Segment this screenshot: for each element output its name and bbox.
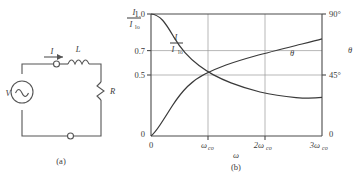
ytick-label-left-1p0: 1.0 — [134, 9, 145, 19]
ytick-label-right-45: 45° — [329, 70, 341, 80]
xtick-label-3wco: 3ω — [309, 140, 320, 150]
xtick-label-wco: ω — [201, 140, 207, 150]
panel-a-circuit: V I L R (a) — [5, 44, 116, 166]
xtick-label-wco-group: ω co — [201, 140, 214, 151]
figure-svg: V I L R (a) — [0, 0, 362, 172]
wire-inductor-to-resistor — [89, 64, 101, 82]
ytick-label-right-90: 90° — [329, 9, 341, 19]
axis-title-right-theta: θ — [348, 45, 352, 55]
terminal-bottom — [68, 133, 74, 139]
xtick-label-3wco-sub: co — [322, 145, 328, 151]
axis-title-left-denominator-sub: lo — [135, 24, 140, 30]
curve-theta — [151, 39, 322, 136]
axis-title-left-denominator: I — [129, 19, 134, 29]
xtick-label-wco-sub: co — [208, 145, 214, 151]
annotation-current-ratio: I I lo — [170, 32, 183, 55]
ytick-label-left-0: 0 — [141, 129, 145, 139]
ytick-label-left-0p7: 0.7 — [134, 46, 145, 56]
xtick-label-3wco-group: 3ω co — [309, 140, 328, 151]
resistor-zigzag — [97, 82, 104, 100]
inductor-label-L: L — [75, 44, 81, 54]
resistor-label-R: R — [109, 86, 116, 96]
curve-current-ratio — [151, 14, 322, 98]
annotation-current-ratio-numerator: I — [174, 32, 179, 42]
wire-bottom-left — [22, 110, 67, 136]
axis-title-x-omega: ω — [233, 150, 239, 160]
annotation-theta: θ — [290, 48, 294, 58]
current-arrow-head — [57, 54, 63, 60]
xtick-label-2wco-sub: co — [266, 145, 272, 151]
panel-a-caption: (a) — [56, 156, 66, 166]
inductor-coil — [68, 60, 89, 64]
ytick-label-left-0p5: 0.5 — [134, 70, 145, 80]
panel-b-chart: I I lo θ I I lo θ 1.0 0.7 0.5 0 90° — [127, 7, 352, 172]
annotation-current-ratio-denominator-sub: lo — [178, 49, 183, 55]
wire-right-bottom — [74, 100, 101, 136]
current-label-I: I — [50, 46, 55, 56]
panel-b-caption: (b) — [231, 162, 241, 172]
xtick-label-0: 0 — [149, 140, 153, 150]
figure-page: V I L R (a) — [0, 0, 362, 172]
xtick-label-2wco: 2ω — [254, 140, 264, 150]
wire-top-left — [22, 64, 53, 74]
xtick-label-2wco-group: 2ω co — [254, 140, 272, 151]
annotation-current-ratio-denominator: I — [171, 44, 176, 54]
terminal-top — [54, 61, 60, 67]
ac-source-sine-icon — [16, 90, 29, 97]
ytick-label-right-0: 0 — [329, 129, 333, 139]
